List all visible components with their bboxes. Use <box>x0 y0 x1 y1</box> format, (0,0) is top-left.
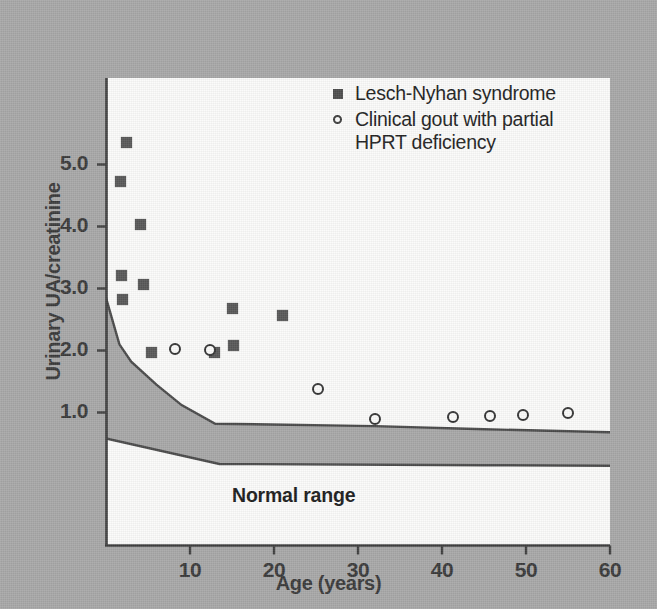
data-point-circle <box>484 410 496 422</box>
legend-item-clinical-gout: Clinical gout with partial HPRT deficien… <box>333 108 556 154</box>
data-point-square <box>116 270 127 281</box>
x-axis-title: Age (years) <box>0 572 657 595</box>
data-point-circle <box>447 411 459 423</box>
open-circle-icon <box>333 108 355 124</box>
data-point-circle <box>204 344 216 356</box>
filled-square-icon <box>333 82 355 99</box>
data-point-square <box>138 279 149 290</box>
legend-item-lesch-nyhan: Lesch-Nyhan syndrome <box>333 82 556 105</box>
data-point-square <box>115 176 126 187</box>
y-axis-title: Urinary UA/creatinine <box>42 157 65 407</box>
legend-label: Clinical gout with partial HPRT deficien… <box>355 108 553 154</box>
normal-range-band <box>106 298 610 466</box>
normal-range-annotation: Normal range <box>232 484 355 507</box>
x-axis-ticks <box>190 546 610 555</box>
data-point-circle <box>562 407 574 419</box>
data-point-square <box>277 310 288 321</box>
figure-scatter-urinary-ua-creatinine: 1.02.03.04.05.0 102030405060 Urinary UA/… <box>0 0 657 609</box>
plot-graphics <box>0 0 657 609</box>
data-point-square <box>121 137 132 148</box>
legend-label: Lesch-Nyhan syndrome <box>355 82 556 105</box>
data-point-circle <box>169 343 181 355</box>
data-point-square <box>146 347 157 358</box>
data-point-circle <box>312 383 324 395</box>
data-point-square <box>228 340 239 351</box>
data-point-square <box>135 219 146 230</box>
data-point-circle <box>517 409 529 421</box>
data-point-square <box>117 294 128 305</box>
y-axis-ticks <box>97 165 106 413</box>
data-point-square <box>227 303 238 314</box>
chart-legend: Lesch-Nyhan syndrome Clinical gout with … <box>333 82 556 157</box>
